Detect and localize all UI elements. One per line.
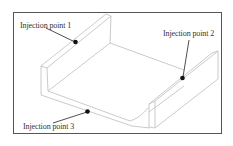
leader-line-2 [183, 40, 189, 77]
injection-point-2-marker [180, 76, 185, 81]
injection-point-3-marker [85, 109, 90, 114]
leader-line-1 [46, 28, 75, 42]
injection-point-3-label: Injection point 3 [23, 123, 74, 131]
injection-diagram: Injection point 1 Injection point 2 Inje… [0, 0, 233, 146]
right-wall [149, 51, 218, 128]
injection-point-1-label: Injection point 1 [20, 22, 71, 30]
injection-point-1-marker [73, 40, 78, 45]
injection-point-2-label: Injection point 2 [163, 30, 214, 38]
